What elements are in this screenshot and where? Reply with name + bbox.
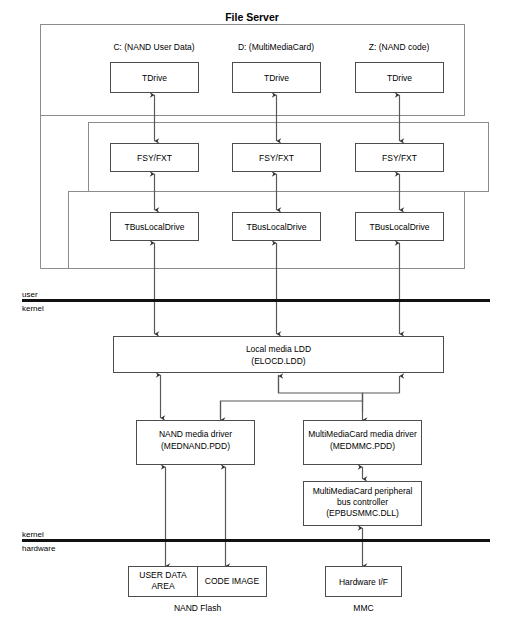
user-data-area-line1: USER DATA [139, 570, 187, 580]
file-server-title: File Server [225, 11, 279, 23]
hardware-if-label: Hardware I/F [339, 577, 388, 587]
tbus-box-d: TBusLocalDrive [233, 213, 321, 241]
zone-label-user: user [22, 290, 38, 299]
nand-driver-line2: (MEDNAND.PDD) [161, 441, 230, 451]
mmc-driver-line2: (MEDMMC.PDD) [330, 441, 395, 451]
tbus-label-c: TBusLocalDrive [125, 222, 185, 232]
fsy-box-z: FSY/FXT [356, 144, 444, 172]
mmc-bus-controller-box: MultiMediaCard peripheral bus controller… [304, 482, 422, 526]
boundary-user-kernel: user kernel [22, 290, 490, 313]
tbus-box-c: TBusLocalDrive [111, 213, 199, 241]
tbus-label-z: TBusLocalDrive [370, 222, 430, 232]
fsy-label-z: FSY/FXT [382, 153, 417, 163]
tbus-label-d: TBusLocalDrive [247, 222, 307, 232]
zone-label-kernel-lower: kernel [22, 530, 44, 539]
mmc-driver-line1: MultiMediaCard media driver [308, 429, 417, 439]
nand-flash-caption: NAND Flash [174, 603, 222, 613]
fsy-box-d: FSY/FXT [233, 144, 321, 172]
connector-ldd-nand-elbow [221, 393, 363, 418]
tdrive-label-d: TDrive [264, 73, 289, 83]
mmc-media-driver-box: MultiMediaCard media driver (MEDMMC.PDD) [304, 421, 422, 465]
fsy-label-d: FSY/FXT [259, 153, 294, 163]
tdrive-box-z: TDrive [356, 63, 444, 93]
mmc-caption: MMC [353, 603, 373, 613]
tbus-box-z: TBusLocalDrive [356, 213, 444, 241]
nand-media-driver-box: NAND media driver (MEDNAND.PDD) [137, 421, 255, 465]
tdrive-box-c: TDrive [111, 63, 199, 93]
ldd-label-line2: (ELOCD.LDD) [251, 356, 305, 366]
fsy-box-c: FSY/FXT [111, 144, 199, 172]
mmc-bus-line3: (EPBUSMMC.DLL) [326, 508, 399, 518]
mmc-bus-line1: MultiMediaCard peripheral [313, 486, 413, 496]
code-image-label: CODE IMAGE [205, 576, 260, 586]
zone-label-hardware: hardware [22, 544, 56, 553]
drive-caption-z: Z: (NAND code) [369, 42, 430, 52]
diagram-canvas: File Server C: (NAND User Data) D: (Mult… [0, 0, 508, 627]
tdrive-label-c: TDrive [142, 73, 167, 83]
mmc-bus-line2: bus controller [337, 497, 388, 507]
nand-driver-line1: NAND media driver [159, 429, 232, 439]
ldd-rect [114, 337, 444, 373]
ldd-label-line1: Local media LDD [246, 344, 311, 354]
drive-caption-d: D: (MultiMediaCard) [238, 42, 314, 52]
local-media-ldd-box: Local media LDD (ELOCD.LDD) [114, 337, 444, 373]
zone-label-kernel-upper: kernel [22, 304, 44, 313]
nand-flash-group: USER DATA AREA CODE IMAGE NAND Flash [129, 567, 267, 614]
connector-ldd-mmc-elbow-a [279, 375, 363, 412]
drive-caption-c: C: (NAND User Data) [113, 42, 194, 52]
user-data-area-line2: AREA [151, 581, 174, 591]
tdrive-label-z: TDrive [387, 73, 412, 83]
architecture-diagram: File Server C: (NAND User Data) D: (Mult… [0, 0, 508, 627]
tdrive-box-d: TDrive [233, 63, 321, 93]
fsy-label-c: FSY/FXT [137, 153, 172, 163]
boundary-kernel-hardware: kernel hardware [22, 530, 490, 553]
mmc-hardware-group: Hardware I/F MMC [326, 567, 402, 614]
